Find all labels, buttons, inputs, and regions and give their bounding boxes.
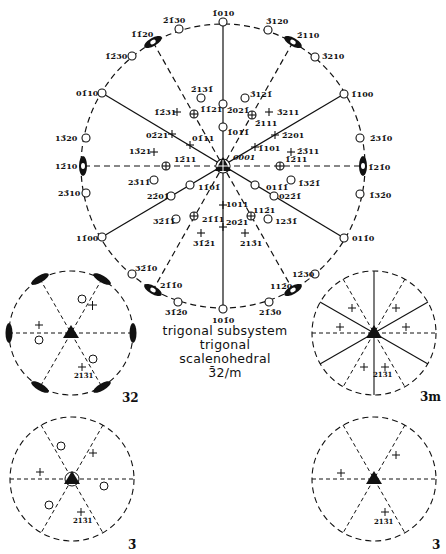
- pole-label: 3̄120: [266, 17, 288, 25]
- pole-label: 2̄131̄: [191, 85, 213, 93]
- pole-label: 3̄211: [277, 108, 299, 116]
- pole-circle: [270, 192, 278, 200]
- pole-label: 13̄20: [55, 134, 77, 142]
- pole-circle: [241, 94, 249, 102]
- pole-circle: [219, 123, 227, 131]
- triad-symbol: [215, 157, 231, 173]
- plus-pole: [271, 131, 279, 139]
- pole-label: 1̄2̄31: [154, 108, 176, 116]
- circled-plus-pole: [162, 162, 170, 170]
- circled-plus-pole: [190, 212, 198, 220]
- pole-circle: [82, 189, 90, 197]
- pole-circle: [340, 90, 348, 98]
- pole-label: 11̄01̄: [198, 183, 220, 191]
- pole-label: 1̄32̄0: [369, 191, 391, 199]
- pole-circle: [311, 53, 319, 61]
- pole-label: 31̄2̄1: [193, 239, 215, 247]
- pole-label: 1̄010: [212, 9, 234, 17]
- pole-label: 01̄10: [76, 89, 98, 97]
- pole-label: 02̄21: [146, 131, 168, 139]
- pole-circle: [98, 233, 106, 241]
- triad-symbol: [366, 325, 382, 338]
- pole-circle: [264, 215, 272, 223]
- point-group-label-3m: 3m: [420, 390, 441, 404]
- caption-system: trigonal: [150, 338, 300, 352]
- pole-label: 1̄101: [258, 144, 280, 152]
- plus-pole: [241, 229, 249, 237]
- pole-circle: [82, 134, 90, 142]
- pole-label: 1̄32̄1̄: [298, 179, 320, 187]
- pole-circle: [219, 18, 227, 26]
- plus-pole: [197, 229, 205, 237]
- caption: trigonal subsystem trigonal scalenohedra…: [150, 324, 300, 380]
- pole-label: 21̄1̄1: [202, 215, 224, 223]
- pole-label: 202̄1: [226, 218, 248, 226]
- pole-label: 011̄0: [352, 234, 374, 242]
- pole-circle: [219, 305, 227, 313]
- pole-label: 022̄1̄: [279, 192, 301, 200]
- pole-label: 2̄021̄: [227, 106, 249, 114]
- caption-subsystem: trigonal subsystem: [150, 324, 300, 338]
- caption-class: scalenohedral: [150, 352, 300, 366]
- pole-circle: [251, 181, 259, 189]
- pole-circle: [175, 25, 183, 33]
- pole-label: 213̄1: [240, 239, 262, 247]
- pole-circle: [186, 181, 194, 189]
- pole-label: 112̄1: [253, 206, 275, 214]
- pole-circle: [150, 176, 158, 184]
- point-group-label-32: 32: [122, 391, 139, 405]
- pole-label: 21̄3̄0: [259, 308, 281, 316]
- pole-label-32: 213̄1: [74, 372, 93, 379]
- pole-label: 1̄011̄: [227, 128, 249, 136]
- pole-label: 2̄1̄30: [163, 16, 185, 24]
- pole-label: 112̄0: [270, 282, 292, 290]
- caption-symbol: 3̄2/m: [150, 366, 300, 380]
- pole-label: 123̄1̄: [275, 217, 297, 225]
- pole-label: 3̄121̄: [250, 90, 272, 98]
- pole-label-3bar: 213̄1: [73, 517, 92, 524]
- pole-label: 32̄1̄0: [135, 264, 157, 272]
- pole-label: 3̄210: [322, 52, 344, 60]
- circled-plus-pole: [276, 162, 284, 170]
- point-group-label-3: 3: [432, 538, 440, 552]
- pole-label: 23̄11̄: [128, 178, 150, 186]
- point-group-label-3bar: 3̄: [128, 538, 136, 552]
- pole-label: 2̄201: [282, 131, 304, 139]
- center-pole-label: 0001: [233, 153, 255, 161]
- pole-label: 23̄10: [58, 189, 80, 197]
- circled-plus-pole: [190, 110, 198, 118]
- pole-label: 2̄110: [297, 31, 319, 39]
- pole-circle: [264, 26, 272, 34]
- pole-label: 1̄1̄21: [200, 105, 222, 113]
- pole-label: 1̄2̄11: [285, 155, 307, 163]
- pole-label: 13̄21: [129, 147, 151, 155]
- pole-circle: [265, 298, 273, 306]
- triad-symbol: [366, 471, 382, 484]
- pole-label: 12̄10: [55, 162, 77, 170]
- triad-symbol: [63, 325, 79, 338]
- pole-label: 1011: [226, 200, 248, 208]
- pole-label: 12̄11: [174, 155, 196, 163]
- pole-label: 2̄31̄0: [370, 134, 392, 142]
- pole-label: 01̄11: [192, 134, 214, 142]
- pole-circle: [128, 52, 136, 60]
- pole-label: 1̄21̄0: [368, 163, 390, 171]
- pole-label: 11̄00: [76, 234, 98, 242]
- pole-circle: [174, 298, 182, 306]
- pole-label: 1̄2̄30: [105, 52, 127, 60]
- pole-label-3: 213̄1: [374, 518, 393, 525]
- pole-label: 31̄2̄0: [165, 308, 187, 316]
- stereogram-32: [6, 271, 137, 395]
- pole-circle: [98, 89, 106, 97]
- pole-label: 1̄100: [351, 90, 373, 98]
- pole-label: 22̄01̄: [147, 192, 169, 200]
- pole-label: 12̄30: [292, 270, 314, 278]
- pole-circle: [356, 190, 364, 198]
- pole-label: 1̄1̄20: [131, 30, 153, 38]
- stereogram-3-bar: [10, 417, 134, 541]
- pole-label: 32̄1̄1̄: [153, 217, 175, 225]
- pole-circle: [197, 94, 205, 102]
- pole-label-3m: 213̄1: [373, 371, 392, 378]
- stereogram-canvas: [0, 0, 446, 554]
- pole-label: 21̄1̄0: [160, 281, 182, 289]
